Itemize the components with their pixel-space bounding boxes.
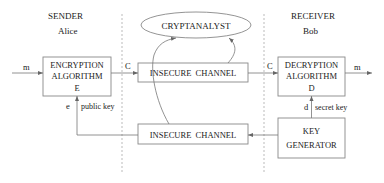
encryption-algorithm-box: ENCRYPTION ALGORITHM E <box>43 57 111 96</box>
cryptanalyst-node: CRYPTANALYST <box>141 12 251 38</box>
plaintext-output-label: m <box>354 62 361 72</box>
secret-key-symbol: d <box>304 102 309 112</box>
public-key-cryptosystem-diagram: SENDER Alice RECEIVER Bob CRYPTANALYST E… <box>0 0 384 183</box>
eavesdrop-top-channel-arrow <box>228 38 235 63</box>
public-key-label: public key <box>81 102 115 111</box>
insecure-channel-top-label: INSECURE CHANNEL <box>150 68 236 78</box>
key-generator-line2: GENERATOR <box>286 140 337 150</box>
decryption-algorithm-box: DECRYPTION ALGORITHM D <box>278 57 345 96</box>
receiver-name: Bob <box>303 26 319 36</box>
insecure-channel-top-box: INSECURE CHANNEL <box>138 63 248 82</box>
insecure-channel-bottom-box: INSECURE CHANNEL <box>138 124 248 144</box>
sender-heading: SENDER <box>48 11 83 21</box>
public-key-symbol: e <box>66 101 70 111</box>
decryption-box-line2: ALGORITHM <box>286 71 337 81</box>
decryption-box-line1: DECRYPTION <box>285 60 338 70</box>
sender-name: Alice <box>58 26 78 36</box>
insecure-channel-bottom-label: INSECURE CHANNEL <box>150 130 236 140</box>
plaintext-input-label: m <box>23 62 30 72</box>
encryption-box-line3: E <box>74 83 79 93</box>
cryptanalyst-label: CRYPTANALYST <box>162 21 231 31</box>
key-generator-box: KEY GENERATOR <box>278 118 345 158</box>
secret-key-label: secret key <box>315 103 347 112</box>
key-generator-line1: KEY <box>303 126 320 136</box>
receiver-heading: RECEIVER <box>291 11 335 21</box>
decryption-box-line3: D <box>308 83 314 93</box>
ciphertext-input-label: C <box>267 61 273 71</box>
encryption-box-line1: ENCRYPTION <box>50 60 103 70</box>
ciphertext-output-label: C <box>125 61 131 71</box>
encryption-box-line2: ALGORITHM <box>52 71 103 81</box>
